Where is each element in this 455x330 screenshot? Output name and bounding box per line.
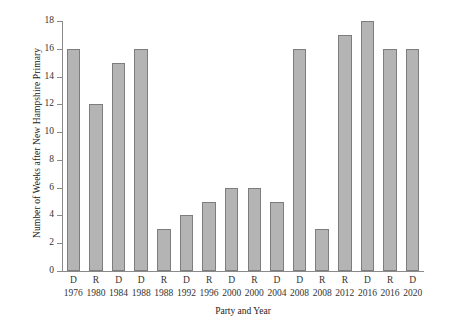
x-axis-tick-label: D2016: [356, 274, 379, 299]
y-axis-tick-label: 14: [45, 70, 55, 83]
x-label-party: R: [311, 274, 334, 287]
bar[interactable]: [157, 229, 171, 271]
x-axis-tick-label: R2016: [379, 274, 402, 299]
bar-slot: [248, 21, 262, 271]
bar-slot: [315, 21, 329, 271]
x-label-party: R: [379, 274, 402, 287]
bar[interactable]: [112, 63, 126, 271]
bar[interactable]: [270, 202, 284, 271]
x-label-party: R: [153, 274, 176, 287]
y-axis-tick-label: 4: [49, 208, 54, 221]
x-label-party: R: [85, 274, 108, 287]
x-label-party: D: [175, 274, 198, 287]
bar[interactable]: [406, 49, 420, 271]
x-axis-tick-label: R2000: [243, 274, 266, 299]
x-axis-tick-label: D1988: [130, 274, 153, 299]
x-label-year: 1988: [130, 287, 153, 300]
x-axis-tick-label: R1988: [153, 274, 176, 299]
bar[interactable]: [134, 49, 148, 271]
x-label-year: 2020: [401, 287, 424, 300]
bar-slot: [293, 21, 307, 271]
x-label-party: D: [220, 274, 243, 287]
bar[interactable]: [180, 215, 194, 271]
x-label-year: 2000: [243, 287, 266, 300]
bar[interactable]: [361, 21, 375, 271]
bar-slot: [134, 21, 148, 271]
y-axis-tick-label: 18: [45, 14, 55, 27]
x-label-party: D: [401, 274, 424, 287]
x-axis-tick-label: D2004: [266, 274, 289, 299]
x-label-party: D: [288, 274, 311, 287]
bar-slot: [406, 21, 420, 271]
y-axis-tick-label: 0: [49, 264, 54, 277]
x-label-year: 2008: [288, 287, 311, 300]
bar[interactable]: [293, 49, 307, 271]
x-label-party: R: [198, 274, 221, 287]
x-axis-tick-label: R1996: [198, 274, 221, 299]
bar-slot: [383, 21, 397, 271]
x-label-year: 2008: [311, 287, 334, 300]
x-label-year: 1976: [62, 287, 85, 300]
y-axis-tick-label: 8: [49, 153, 54, 166]
x-axis-tick-label: D1984: [107, 274, 130, 299]
bar-slot: [180, 21, 194, 271]
y-axis-tick-label: 12: [45, 97, 55, 110]
x-axis-tick-label: R2012: [334, 274, 357, 299]
x-label-year: 2012: [334, 287, 357, 300]
bar[interactable]: [225, 188, 239, 271]
bar[interactable]: [383, 49, 397, 271]
x-label-year: 1988: [153, 287, 176, 300]
bar-slot: [225, 21, 239, 271]
x-label-party: D: [62, 274, 85, 287]
bar[interactable]: [338, 35, 352, 271]
x-label-party: D: [266, 274, 289, 287]
x-axis-title: Party and Year: [62, 306, 424, 316]
x-axis-tick-label: R2008: [311, 274, 334, 299]
y-axis-title: Number of Weeks after New Hampshire Prim…: [28, 18, 46, 268]
x-axis-line: [62, 271, 424, 272]
bar-slot: [270, 21, 284, 271]
bar[interactable]: [89, 104, 103, 271]
bar[interactable]: [248, 188, 262, 271]
bar-slot: [157, 21, 171, 271]
x-label-year: 2004: [266, 287, 289, 300]
bar-series: [62, 21, 424, 271]
x-label-year: 2000: [220, 287, 243, 300]
bar-slot: [67, 21, 81, 271]
bar-slot: [89, 21, 103, 271]
y-axis-tick-label: 10: [45, 125, 55, 138]
x-axis-tick-labels: D1976R1980D1984D1988R1988D1992R1996D2000…: [62, 274, 424, 302]
y-axis-tick: 0: [57, 271, 62, 272]
y-axis-tick-label: 16: [45, 42, 55, 55]
x-axis-tick-label: D2008: [288, 274, 311, 299]
x-axis-tick-label: D1976: [62, 274, 85, 299]
y-axis-tick-label: 2: [49, 236, 54, 249]
bar-slot: [338, 21, 352, 271]
x-axis-tick-label: R1980: [85, 274, 108, 299]
bar[interactable]: [67, 49, 81, 271]
x-label-year: 2016: [379, 287, 402, 300]
plot-area: 024681012141618: [62, 21, 424, 271]
x-label-year: 1992: [175, 287, 198, 300]
x-label-year: 1984: [107, 287, 130, 300]
y-axis-tick-label: 6: [49, 181, 54, 194]
bar-chart: Number of Weeks after New Hampshire Prim…: [0, 0, 455, 330]
x-axis-tick-label: D2000: [220, 274, 243, 299]
x-axis-tick-label: D1992: [175, 274, 198, 299]
x-label-party: D: [356, 274, 379, 287]
bar-slot: [202, 21, 216, 271]
x-label-year: 1996: [198, 287, 221, 300]
bar[interactable]: [202, 202, 216, 271]
x-label-party: R: [243, 274, 266, 287]
bar-slot: [112, 21, 126, 271]
x-label-party: D: [107, 274, 130, 287]
x-label-party: D: [130, 274, 153, 287]
x-label-party: R: [334, 274, 357, 287]
bar-slot: [361, 21, 375, 271]
x-axis-tick-label: D2020: [401, 274, 424, 299]
x-label-year: 1980: [85, 287, 108, 300]
bar[interactable]: [315, 229, 329, 271]
x-label-year: 2016: [356, 287, 379, 300]
